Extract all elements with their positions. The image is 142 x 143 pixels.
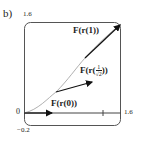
label-f-r-inv-sqrt2: F(r(1√2)) [80,64,108,77]
label-f-r1: F(r(1)) [73,26,99,35]
vector-field-plot [0,0,142,143]
origin-label: 0 [16,108,20,116]
x-max-label: 1.6 [124,109,133,116]
label-f-r0: F(r(0)) [51,99,77,108]
y-min-label: −0.2 [17,127,30,134]
